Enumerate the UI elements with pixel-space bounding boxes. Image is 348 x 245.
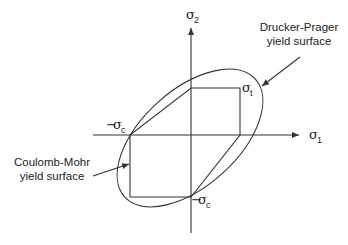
- coulomb-mohr-arrow: [93, 164, 129, 176]
- coulomb-mohr-hexagon: [130, 88, 240, 197]
- drucker-prager-ellipse: [92, 43, 287, 232]
- svg-text:c: c: [206, 200, 211, 210]
- svg-text:c: c: [121, 125, 126, 135]
- svg-text:1: 1: [317, 135, 322, 145]
- svg-text:Drucker-Prager: Drucker-Prager: [260, 21, 339, 33]
- coulomb-mohr-annotation: Coulomb-Mohr yield surface: [14, 156, 90, 182]
- svg-text:yield surface: yield surface: [20, 170, 85, 182]
- sigma2-label: σ 2: [186, 7, 199, 25]
- svg-text:Coulomb-Mohr: Coulomb-Mohr: [14, 156, 90, 168]
- drucker-prager-arrow: [262, 57, 300, 86]
- sigma1-label: σ 1: [309, 127, 322, 145]
- neg-sigma-c-bottom-label: − σ c: [191, 192, 211, 210]
- yield-surface-diagram: σ 2 σ 1 σ t − σ c − σ c Drucker-Prager y…: [0, 0, 348, 245]
- svg-text:yield surface: yield surface: [267, 35, 332, 47]
- drucker-prager-annotation: Drucker-Prager yield surface: [260, 21, 339, 47]
- svg-text:2: 2: [194, 15, 199, 25]
- sigma-t-label: σ t: [242, 80, 253, 98]
- neg-sigma-c-left-label: − σ c: [106, 117, 126, 135]
- svg-text:t: t: [250, 88, 253, 98]
